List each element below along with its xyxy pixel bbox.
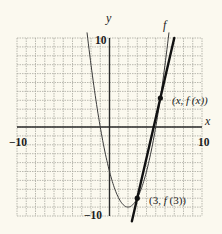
x-tick-label-left: −10 (9, 136, 27, 148)
point-label-x-fx-close: (x)) (189, 94, 208, 107)
y-tick-label-bottom: −10 (84, 209, 102, 221)
point-label-x-fx-open: (x, (172, 94, 186, 107)
y-axis-label: y (105, 11, 112, 25)
secant-line-figure: y x f 10 −10 −10 10 (3, f (3)) (x, f (x)… (0, 0, 222, 234)
point-label-3-f3-open: (3, (149, 194, 164, 207)
point-x-fx (158, 95, 163, 100)
point-label-x-fx: (x, f (x)) (172, 94, 208, 107)
x-axis-label: x (204, 114, 211, 128)
point-label-3-f3: (3, f (3)) (149, 194, 186, 207)
x-tick-label-right: 10 (198, 136, 210, 148)
y-tick-label-top: 10 (95, 34, 107, 46)
function-graph: y x f 10 −10 −10 10 (3, f (3)) (x, f (x)… (0, 0, 222, 234)
curve-label-f: f (163, 18, 168, 32)
point-3-f3 (135, 196, 140, 201)
point-label-3-f3-close: (3)) (167, 194, 187, 207)
